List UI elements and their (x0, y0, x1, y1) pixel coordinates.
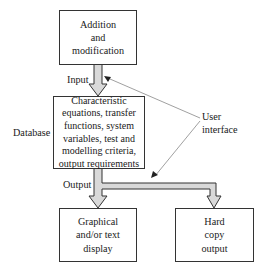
database-box: Characteristic equations, transfer funct… (53, 96, 145, 169)
input-arrow (89, 64, 107, 96)
pointer-arrowhead-output (151, 171, 158, 178)
hard-copy-text: Hard copy output (201, 215, 227, 255)
hard-copy-box: Hard copy output (175, 208, 254, 262)
addition-modification-box: Addition and modification (59, 10, 137, 65)
database-label: Database (13, 126, 50, 139)
input-label: Input (67, 73, 89, 86)
output-label: Output (63, 178, 91, 191)
user-interface-label: User interface (202, 110, 238, 136)
pointer-arrowhead-input (104, 76, 111, 82)
graphical-display-box: Graphical and/or text display (59, 208, 137, 262)
graphical-display-text: Graphical and/or text display (76, 215, 120, 255)
database-contents-text: Characteristic equations, transfer funct… (59, 95, 139, 171)
addition-modification-text: Addition and modification (72, 18, 124, 58)
